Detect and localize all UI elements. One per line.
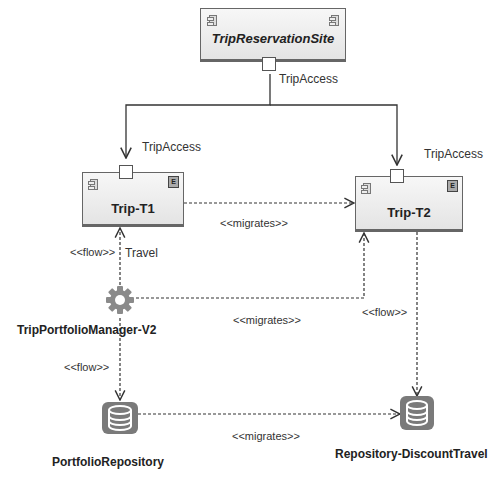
flow-label: <<flow>> (362, 306, 407, 318)
port-label: TripAccess (279, 72, 338, 86)
component-trip-reservation-site[interactable]: TripReservationSite (200, 8, 346, 62)
component-name: TripReservationSite (201, 31, 345, 46)
node-name: TripPortfolioManager-V2 (17, 323, 156, 337)
migrates-label: <<migrates>> (220, 217, 288, 229)
travel-label: Travel (125, 246, 158, 260)
component-icon (90, 179, 98, 190)
component-icon (209, 15, 217, 26)
port-trip-access[interactable] (390, 169, 404, 183)
node-name: PortfolioRepository (52, 455, 164, 469)
migrates-label: <<migrates>> (233, 314, 301, 326)
port-trip-access[interactable] (119, 165, 133, 179)
component-e-icon: E (168, 176, 179, 188)
database-icon[interactable] (102, 402, 138, 434)
gear-icon[interactable] (104, 284, 136, 316)
component-name: Trip-T1 (83, 201, 183, 216)
component-trip-t2[interactable]: E Trip-T2 (355, 176, 463, 232)
migrates-label: <<migrates>> (232, 430, 300, 442)
flow-label: <<flow>> (70, 246, 115, 258)
port-trip-access[interactable] (262, 57, 276, 71)
database-icon[interactable] (400, 396, 434, 430)
component-trip-t1[interactable]: E Trip-T1 (82, 172, 184, 227)
node-name: Repository-DiscountTravel (335, 447, 488, 461)
port-label: TripAccess (424, 147, 483, 161)
port-label: TripAccess (142, 140, 201, 154)
component-icon (363, 183, 371, 194)
component-icon (331, 15, 339, 26)
component-name: Trip-T2 (356, 205, 462, 220)
flow-label: <<flow>> (64, 361, 109, 373)
component-e-icon: E (447, 180, 458, 192)
